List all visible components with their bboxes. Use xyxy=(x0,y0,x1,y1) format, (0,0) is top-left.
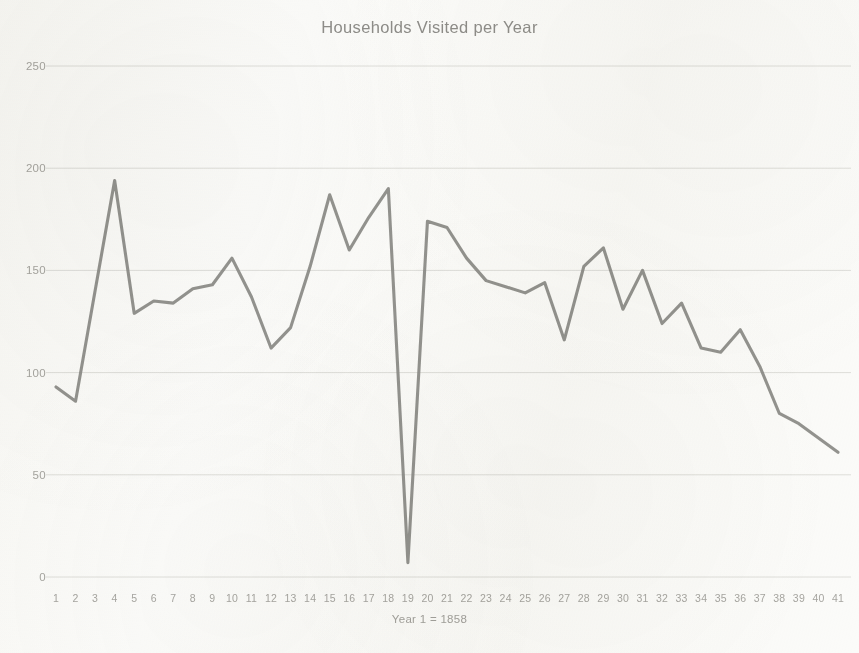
gridlines xyxy=(46,66,851,577)
data-series-line xyxy=(56,180,838,562)
chart-container: Households Visited per Year 050100150200… xyxy=(0,0,859,653)
x-axis-title: Year 1 = 1858 xyxy=(0,613,859,625)
plot-area xyxy=(0,0,859,653)
x-tick-label: 41 xyxy=(826,592,850,604)
